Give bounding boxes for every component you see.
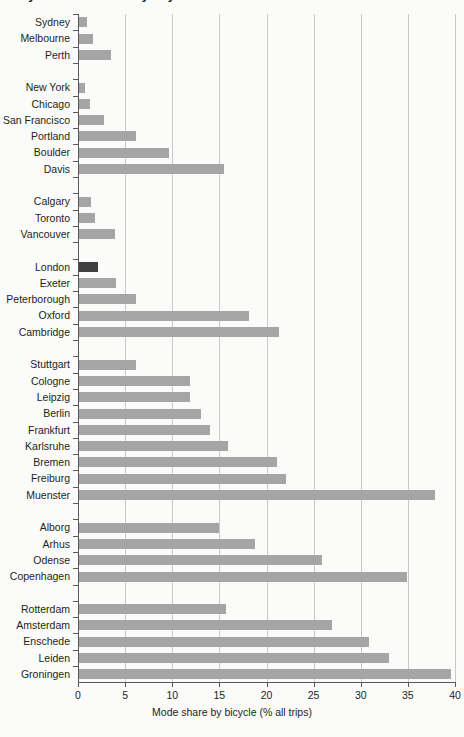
category-label: Frankfurt (0, 422, 70, 438)
clipped-chart-title: Bicycle mode share by city (0, 0, 464, 7)
category-label: Chicago (0, 96, 70, 112)
y-axis-tick (73, 405, 78, 406)
y-axis-tick (73, 144, 78, 145)
category-label: Leiden (0, 650, 70, 666)
bar-rotterdam (79, 604, 226, 614)
y-axis-tick (73, 291, 78, 292)
category-label: Copenhagen (0, 568, 70, 584)
y-axis-tick (73, 63, 78, 64)
bar-chicago (79, 99, 90, 109)
x-axis-tick-15 (219, 682, 220, 687)
x-axis-label-5: 5 (105, 689, 145, 701)
table-row: Muenster (0, 487, 464, 503)
category-label: Stuttgart (0, 356, 70, 372)
spacer-row (0, 585, 464, 601)
x-axis-tick-20 (267, 682, 268, 687)
category-label: Boulder (0, 144, 70, 160)
category-label: Karlsruhe (0, 438, 70, 454)
table-row: Exeter (0, 275, 464, 291)
table-row: Groningen (0, 666, 464, 682)
bar-new-york (79, 83, 85, 93)
y-axis-tick (73, 585, 78, 586)
category-label: Perth (0, 47, 70, 63)
y-axis-tick (73, 47, 78, 48)
bar-oxford (79, 311, 249, 321)
y-axis-tick (73, 568, 78, 569)
category-label: Toronto (0, 210, 70, 226)
category-label: New York (0, 79, 70, 95)
x-axis-tick-35 (408, 682, 409, 687)
table-row: Sydney (0, 14, 464, 30)
spacer-row (0, 242, 464, 258)
bar-davis (79, 164, 224, 174)
x-axis-tick-5 (125, 682, 126, 687)
bar-portland (79, 131, 136, 141)
table-row: Oxford (0, 307, 464, 323)
bar-amsterdam (79, 620, 332, 630)
table-row: Leipzig (0, 389, 464, 405)
category-label: Cambridge (0, 324, 70, 340)
table-row: Toronto (0, 210, 464, 226)
y-axis-tick (73, 373, 78, 374)
x-axis-title: Mode share by bicycle (% all trips) (0, 706, 464, 718)
table-row: Cambridge (0, 324, 464, 340)
bar-vancouver (79, 229, 115, 239)
x-axis-tick-10 (172, 682, 173, 687)
table-row: Odense (0, 552, 464, 568)
category-label: Leipzig (0, 389, 70, 405)
x-axis-label-15: 15 (199, 689, 239, 701)
y-axis-tick (73, 617, 78, 618)
y-axis-tick (73, 552, 78, 553)
table-row: New York (0, 79, 464, 95)
table-row: Peterborough (0, 291, 464, 307)
category-label: Vancouver (0, 226, 70, 242)
x-axis-label-25: 25 (294, 689, 334, 701)
category-label: Peterborough (0, 291, 70, 307)
y-axis-tick (73, 112, 78, 113)
category-label: Berlin (0, 405, 70, 421)
y-axis-tick (73, 128, 78, 129)
y-axis-tick (73, 324, 78, 325)
y-axis-tick (73, 177, 78, 178)
bar-berlin (79, 409, 201, 419)
category-label: Freiburg (0, 470, 70, 486)
table-row: Boulder (0, 144, 464, 160)
table-row: Vancouver (0, 226, 464, 242)
x-axis-tick-30 (361, 682, 362, 687)
table-row: Stuttgart (0, 356, 464, 372)
spacer-row (0, 340, 464, 356)
y-axis-tick (73, 307, 78, 308)
x-axis-tick-25 (314, 682, 315, 687)
bar-arhus (79, 539, 255, 549)
category-label: Amsterdam (0, 617, 70, 633)
table-row: Karlsruhe (0, 438, 464, 454)
y-axis-tick (73, 438, 78, 439)
table-row: Copenhagen (0, 568, 464, 584)
y-axis-tick (73, 536, 78, 537)
y-axis-tick (73, 633, 78, 634)
category-label: Cologne (0, 373, 70, 389)
category-label: San Francisco (0, 112, 70, 128)
category-label: London (0, 259, 70, 275)
y-axis-tick (73, 161, 78, 162)
bar-alborg (79, 523, 219, 533)
bar-stuttgart (79, 360, 136, 370)
bar-odense (79, 555, 322, 565)
bar-peterborough (79, 294, 136, 304)
x-axis-label-20: 20 (247, 689, 287, 701)
category-label: Muenster (0, 487, 70, 503)
table-row: Davis (0, 161, 464, 177)
bar-groningen (79, 669, 451, 679)
y-axis-tick (73, 503, 78, 504)
y-axis-tick (73, 601, 78, 602)
x-axis-label-35: 35 (388, 689, 428, 701)
y-axis-tick (73, 470, 78, 471)
table-row: Cologne (0, 373, 464, 389)
y-axis-tick (73, 242, 78, 243)
bar-enschede (79, 637, 369, 647)
spacer-row (0, 177, 464, 193)
table-row: Calgary (0, 193, 464, 209)
category-label: Exeter (0, 275, 70, 291)
bicycle-mode-share-bar-chart: SydneyMelbournePerthNew YorkChicagoSan F… (0, 7, 464, 737)
category-label: Groningen (0, 666, 70, 682)
